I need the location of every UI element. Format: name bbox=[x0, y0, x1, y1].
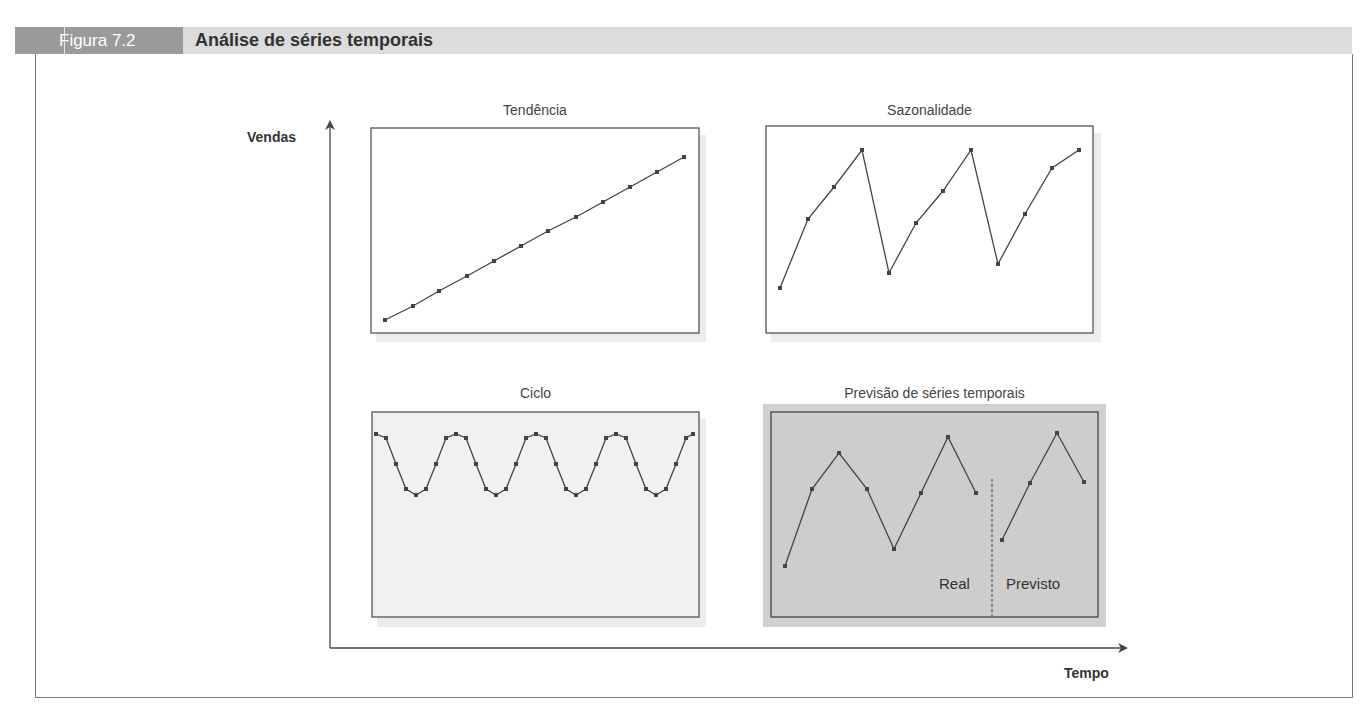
panel-title-cycle: Ciclo bbox=[372, 385, 699, 401]
real-label: Real bbox=[939, 575, 970, 592]
panel-cycle bbox=[372, 412, 706, 627]
forecast-label: Previsto bbox=[1006, 575, 1060, 592]
panel-title-trend: Tendência bbox=[371, 102, 699, 118]
x-axis-label: Tempo bbox=[1064, 665, 1109, 681]
panel-seasonality bbox=[766, 126, 1101, 342]
y-axis-label: Vendas bbox=[247, 129, 296, 145]
panel-forecast bbox=[763, 404, 1106, 627]
panel-title-forecast: Previsão de séries temporais bbox=[771, 385, 1098, 401]
panel-trend bbox=[371, 128, 706, 342]
panel-title-seasonality: Sazonalidade bbox=[766, 102, 1093, 118]
